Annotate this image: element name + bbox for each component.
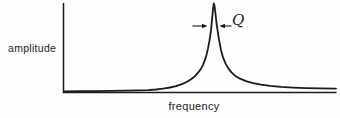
x-axis-label: frequency xyxy=(158,100,230,112)
q-annotation-label: Q xyxy=(232,13,244,28)
right-arrowhead-icon xyxy=(220,24,226,29)
resonance-curve xyxy=(64,4,336,92)
left-arrowhead-icon xyxy=(202,24,208,29)
resonance-curve-figure: amplitude frequency Q xyxy=(0,0,340,118)
y-axis-label: amplitude xyxy=(8,42,56,54)
